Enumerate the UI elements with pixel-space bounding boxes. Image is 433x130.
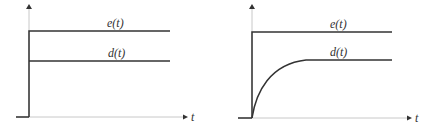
diagram-canvas: e(t) d(t) t e(t) d(t) t — [0, 0, 433, 130]
left-x-axis-arrow-icon — [183, 115, 188, 120]
left-e-label: e(t) — [107, 16, 124, 30]
left-t-label: t — [191, 110, 195, 124]
right-y-axis-arrow-icon — [249, 4, 255, 9]
left-y-axis-arrow-icon — [26, 4, 32, 9]
right-e-label: e(t) — [330, 17, 347, 31]
left-d-label: d(t) — [108, 46, 125, 60]
left-plot: e(t) d(t) t — [16, 4, 195, 124]
right-t-label: t — [415, 111, 419, 125]
left-e-line — [29, 31, 170, 117]
right-plot: e(t) d(t) t — [238, 4, 419, 125]
right-d-label: d(t) — [330, 45, 347, 59]
right-d-curve — [252, 60, 392, 118]
right-x-axis-arrow-icon — [407, 116, 412, 121]
